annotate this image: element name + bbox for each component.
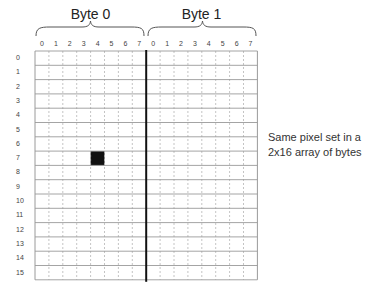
bit-label: 5	[105, 40, 119, 47]
row-label: 9	[16, 183, 34, 190]
caption-line-2: 2x16 array of bytes	[268, 145, 383, 160]
row-label: 13	[16, 240, 34, 247]
bit-label: 3	[188, 40, 202, 47]
row-label: 4	[16, 111, 34, 118]
bit-label: 1	[160, 40, 174, 47]
bit-label: 4	[91, 40, 105, 47]
bit-label: 0	[146, 40, 160, 47]
byte-1-brace	[148, 21, 256, 36]
bit-label: 0	[35, 40, 49, 47]
bit-label: 5	[216, 40, 230, 47]
byte-0-brace	[36, 21, 144, 36]
bit-label: 6	[230, 40, 244, 47]
row-label: 7	[16, 154, 34, 161]
bit-label: 6	[118, 40, 132, 47]
row-label: 0	[16, 54, 34, 61]
row-label: 2	[16, 83, 34, 90]
row-label: 12	[16, 226, 34, 233]
row-label: 14	[16, 254, 34, 261]
set-pixel	[91, 151, 105, 165]
bit-label: 2	[174, 40, 188, 47]
row-label: 1	[16, 68, 34, 75]
row-label: 5	[16, 126, 34, 133]
caption-line-1: Same pixel set in a	[268, 130, 383, 145]
bit-label: 3	[77, 40, 91, 47]
row-label: 6	[16, 140, 34, 147]
row-label: 15	[16, 269, 34, 276]
caption: Same pixel set in a 2x16 array of bytes	[268, 130, 383, 160]
row-label: 8	[16, 168, 34, 175]
bit-label: 7	[132, 40, 146, 47]
row-label: 3	[16, 97, 34, 104]
bit-label: 7	[244, 40, 258, 47]
bit-label: 2	[63, 40, 77, 47]
row-label: 10	[16, 197, 34, 204]
row-label: 11	[16, 211, 34, 218]
bit-label: 4	[202, 40, 216, 47]
bit-label: 1	[49, 40, 63, 47]
